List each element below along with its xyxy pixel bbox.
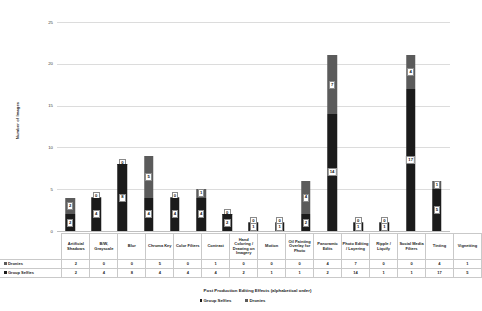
bar-segment-group-selfies[interactable]: 2 [301, 214, 311, 231]
bar-column[interactable]: 714 [319, 22, 345, 231]
legend-item[interactable]: Dronies [245, 298, 265, 303]
data-label: 2 [67, 202, 74, 210]
table-cell: 4 [90, 269, 118, 278]
bar-stack: 01 [354, 222, 364, 231]
bar-stack: 08 [118, 164, 128, 231]
data-label: 1 [198, 189, 205, 197]
bar-segment-group-selfies[interactable]: 8 [118, 164, 128, 231]
data-label: 1 [250, 223, 257, 231]
data-label: 17 [406, 156, 415, 164]
bar-column[interactable]: 04 [83, 22, 109, 231]
table-body: Dronies200501000470041Group Selfies24844… [0, 260, 481, 278]
legend-label: Group Selfies [204, 298, 232, 303]
bar-segment-group-selfies[interactable]: 1 [354, 223, 364, 231]
bar-segment-group-selfies[interactable]: 4 [196, 198, 206, 231]
bar-segment-group-selfies[interactable]: 1 [380, 223, 390, 231]
data-label: 4 [145, 210, 152, 218]
bar-segment-dronies[interactable]: 4 [406, 55, 416, 88]
bar-column[interactable]: 54 [136, 22, 162, 231]
bar-segment-group-selfies[interactable]: 4 [92, 198, 102, 231]
bar-stack: 01 [249, 222, 259, 231]
table-column-header: Panoramic Edits [314, 234, 342, 260]
table-header-row: Artificial ShadowsB/W, GrayscaleBlurChro… [0, 234, 481, 260]
data-label: 4 [198, 210, 205, 218]
table-cell: 0 [118, 260, 146, 269]
bar-column[interactable]: 01 [371, 22, 397, 231]
bar-segment-group-selfies[interactable]: 17 [406, 89, 416, 231]
bar-column[interactable]: 22 [57, 22, 83, 231]
table-corner-cell [0, 234, 62, 260]
bar-segment-group-selfies[interactable]: 4 [144, 198, 154, 231]
table-column-header: Blur [118, 234, 146, 260]
bar-segment-group-selfies[interactable]: 2 [223, 214, 233, 231]
bar-segment-group-selfies[interactable]: 5 [432, 189, 442, 231]
table-cell: 5 [146, 260, 174, 269]
bar-segment-dronies[interactable]: 2 [65, 198, 75, 215]
table-column-header: Hand Coloring / Drawing on Imagery [230, 234, 258, 260]
bar-stack: 04 [92, 197, 102, 231]
bar-column[interactable]: 42 [293, 22, 319, 231]
data-table: Artificial ShadowsB/W, GrayscaleBlurChro… [0, 233, 455, 278]
data-label: 1 [381, 223, 388, 231]
data-label: 5 [434, 206, 441, 214]
table-cell: 0 [286, 260, 314, 269]
data-label: 4 [93, 210, 100, 218]
legend-item[interactable]: Group Selfies [200, 298, 232, 303]
y-axis-tick-25: 25 [37, 20, 53, 25]
bar-segment-group-selfies[interactable]: 2 [65, 214, 75, 231]
table-column-header: Vignetting [453, 234, 481, 260]
data-label: 1 [434, 181, 441, 189]
bar-stack: 15 [432, 181, 442, 231]
bar-stack: 22 [65, 198, 75, 231]
table-cell: 1 [202, 260, 230, 269]
bar-column[interactable]: 01 [345, 22, 371, 231]
table-cell: 4 [174, 269, 202, 278]
bar-column[interactable]: 417 [398, 22, 424, 231]
bar-segment-dronies[interactable]: 5 [144, 156, 154, 198]
table-cell: 8 [118, 269, 146, 278]
bar-column[interactable]: 01 [267, 22, 293, 231]
chart-legend: Group SelfiesDronies [0, 298, 455, 303]
bar-column[interactable]: 04 [162, 22, 188, 231]
bar-segment-dronies[interactable]: 7 [327, 55, 337, 114]
table-cell: 2 [230, 269, 258, 278]
bar-column[interactable]: 14 [188, 22, 214, 231]
table-cell: 2 [62, 260, 90, 269]
table-cell: 4 [314, 260, 342, 269]
table-column-header: Tinting [425, 234, 453, 260]
x-axis-title: Post Production Editing Effects (alphabe… [0, 288, 455, 293]
bar-segment-dronies[interactable]: 1 [432, 181, 442, 189]
y-axis-tick-15: 15 [37, 103, 53, 108]
table-cell: 1 [453, 260, 481, 269]
bar-segment-dronies[interactable]: 1 [196, 189, 206, 197]
bar-column[interactable]: 08 [109, 22, 135, 231]
bar-segment-group-selfies[interactable]: 4 [170, 198, 180, 231]
table-cell: 14 [342, 269, 370, 278]
legend-swatch-icon [200, 299, 203, 302]
table-column-header: B/W, Grayscale [90, 234, 118, 260]
table-column-header: Contrast [202, 234, 230, 260]
bar-stack: 04 [170, 197, 180, 231]
table-cell: 4 [146, 269, 174, 278]
table-cell: 1 [398, 269, 426, 278]
table-column-header: Motion [258, 234, 286, 260]
data-label: 5 [145, 173, 152, 181]
bar-column[interactable]: 01 [240, 22, 266, 231]
table-row: Group Selfies24844421121411175 [0, 269, 481, 278]
table-cell: 1 [286, 269, 314, 278]
data-label: 8 [119, 194, 126, 202]
bar-stack: 714 [327, 55, 337, 231]
table-cell: 0 [174, 260, 202, 269]
bar-segment-dronies[interactable]: 4 [301, 181, 311, 214]
bar-column[interactable]: 15 [424, 22, 450, 231]
table-cell: 0 [230, 260, 258, 269]
legend-swatch-icon [4, 271, 7, 274]
bar-stack: 01 [275, 222, 285, 231]
table-cell: 2 [314, 269, 342, 278]
bar-segment-group-selfies[interactable]: 14 [327, 114, 337, 231]
table-cell: 7 [342, 260, 370, 269]
bar-segment-group-selfies[interactable]: 1 [249, 223, 259, 231]
bar-column[interactable]: 02 [214, 22, 240, 231]
data-label: 4 [172, 210, 179, 218]
bar-segment-group-selfies[interactable]: 1 [275, 223, 285, 231]
